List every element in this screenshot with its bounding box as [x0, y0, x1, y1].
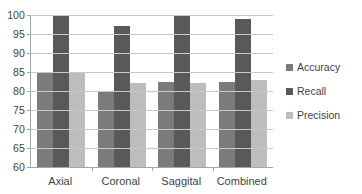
x-tick-label-combined: Combined: [212, 170, 273, 192]
y-tickmark: [27, 129, 31, 130]
bar-recall-combined: [235, 19, 251, 167]
y-tick-label: 80: [13, 86, 25, 97]
y-tick-label: 70: [13, 124, 25, 135]
y-tick-label: 65: [13, 143, 25, 154]
y-tick-label: 75: [13, 105, 25, 116]
y-tickmark: [27, 167, 31, 168]
y-tickmark: [27, 148, 31, 149]
bar-accuracy-axial: [37, 72, 53, 167]
y-tick-label: 85: [13, 67, 25, 78]
x-axis: AxialCoronalSaggitalCombined: [30, 170, 272, 192]
y-tick-label: 60: [13, 162, 25, 173]
gridline: [31, 15, 273, 16]
plot-area: [30, 15, 273, 168]
bar-precision-coronal: [130, 83, 146, 167]
x-tick-label-coronal: Coronal: [91, 170, 152, 192]
bar-recall-coronal: [114, 26, 130, 167]
legend-item-precision[interactable]: Precision: [286, 110, 360, 121]
y-tick-label: 90: [13, 48, 25, 59]
legend-item-accuracy[interactable]: Accuracy: [286, 62, 360, 73]
x-tick-label-saggital: Saggital: [151, 170, 212, 192]
bar-accuracy-saggital: [158, 82, 174, 168]
gridline: [31, 53, 273, 54]
legend-label: Accuracy: [297, 62, 340, 73]
gridline: [31, 91, 273, 92]
y-tickmark: [27, 91, 31, 92]
y-tickmark: [27, 34, 31, 35]
legend-label: Precision: [297, 110, 340, 121]
legend-swatch-icon: [286, 112, 293, 119]
bar-precision-axial: [69, 73, 85, 167]
y-tickmark: [27, 110, 31, 111]
bar-accuracy-combined: [219, 82, 235, 168]
gridline: [31, 34, 273, 35]
bar-precision-combined: [251, 80, 267, 167]
x-tick-label-axial: Axial: [30, 170, 91, 192]
legend-label: Recall: [297, 86, 326, 97]
y-tickmark: [27, 53, 31, 54]
y-axis: 1009590858075706560: [0, 0, 28, 194]
y-tickmark: [27, 72, 31, 73]
legend-swatch-icon: [286, 64, 293, 71]
bar-precision-saggital: [190, 83, 206, 167]
legend: AccuracyRecallPrecision: [286, 62, 360, 134]
y-tick-label: 95: [13, 29, 25, 40]
gridline: [31, 148, 273, 149]
gridline: [31, 129, 273, 130]
bar-chart: 1009590858075706560 AxialCoronalSaggital…: [0, 0, 362, 194]
legend-item-recall[interactable]: Recall: [286, 86, 360, 97]
gridline: [31, 110, 273, 111]
legend-swatch-icon: [286, 88, 293, 95]
y-tickmark: [27, 15, 31, 16]
gridline: [31, 72, 273, 73]
y-tick-label: 100: [7, 10, 25, 21]
